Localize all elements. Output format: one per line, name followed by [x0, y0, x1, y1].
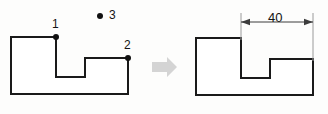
dimension-value-label: 40 [268, 11, 282, 24]
vertex-label-2: 2 [124, 39, 131, 51]
left-shape-outline [11, 37, 128, 94]
free-point-label-3: 3 [109, 9, 116, 21]
vertex-label-1: 1 [52, 18, 59, 30]
transition-arrow-icon [152, 57, 177, 77]
right-shape-outline [196, 38, 313, 95]
left-shape-group [11, 13, 131, 94]
dimension-arrowhead-left [241, 19, 250, 25]
vertex-dot-2 [125, 55, 131, 61]
dimension-arrowhead-right [304, 19, 313, 25]
vertex-dot-1 [53, 34, 59, 40]
right-shape-group [196, 13, 313, 95]
drawing-canvas: 1 2 3 40 [0, 0, 328, 114]
free-point-dot-3 [97, 13, 103, 19]
